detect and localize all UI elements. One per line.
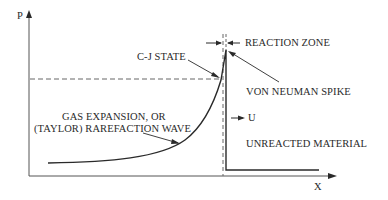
gas-expansion-label-line2: (TAYLOR) RAREFACTION WAVE (34, 123, 191, 135)
y-axis-label: P (17, 10, 23, 22)
x-axis-label: X (314, 181, 322, 193)
arrow-right-icon (238, 116, 245, 121)
x-axis-arrow-icon (328, 173, 337, 179)
velocity-label: U (248, 112, 256, 124)
y-axis (26, 10, 32, 176)
unreacted-material-label: UNREACTED MATERIAL (246, 138, 367, 150)
von-neuman-spike-leader (230, 52, 279, 82)
x-axis (29, 173, 337, 179)
gas-expansion-label-line1: GAS EXPANSION, OR (62, 111, 166, 123)
y-axis-arrow-icon (26, 10, 32, 18)
velocity-arrow (231, 116, 245, 121)
pressure-profile-curve (48, 50, 319, 170)
reaction-zone-label: REACTION ZONE (245, 37, 330, 49)
von-neuman-spike-label: VON NEUMAN SPIKE (246, 86, 351, 98)
detonation-pressure-profile-diagram (0, 0, 388, 200)
cj-state-label: C-J STATE (137, 51, 186, 63)
